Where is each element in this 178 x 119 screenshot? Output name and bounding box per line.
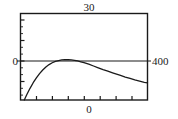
x-origin-label: 0 xyxy=(0,103,178,115)
x-max-label: 400 xyxy=(152,55,169,67)
chart-figure: 30 0 400 0 xyxy=(0,0,178,119)
y-max-label: 30 xyxy=(0,1,178,13)
y-origin-label: 0 xyxy=(4,55,18,67)
